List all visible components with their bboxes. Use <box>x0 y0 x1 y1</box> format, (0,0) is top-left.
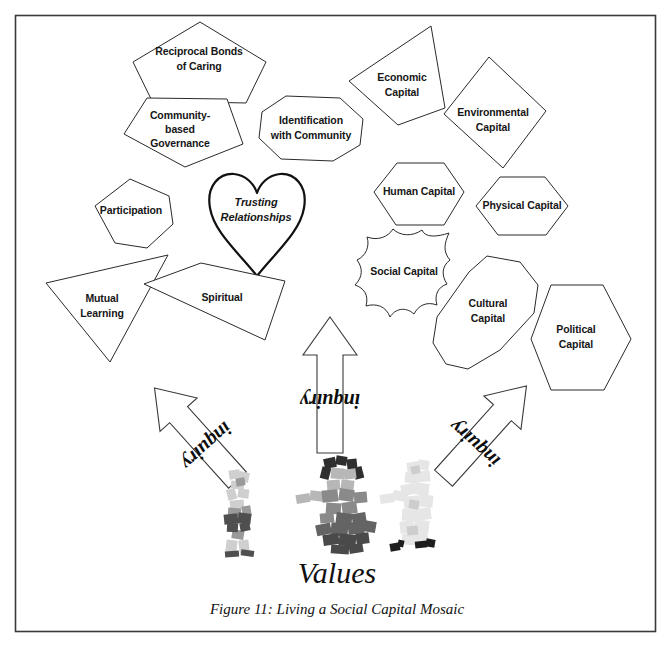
shape-label-line1: Community- <box>150 109 211 121</box>
shape-label-line2: with Community <box>270 129 352 141</box>
shape-label-line2: Capital <box>476 121 510 133</box>
shape-trusting-relationships: Trusting Relationships <box>209 174 304 276</box>
figure-caption: Figure 11: Living a Social Capital Mosai… <box>209 601 464 617</box>
shape-mutual-learning: Mutual Learning <box>46 255 168 362</box>
shape-spiritual: Spiritual <box>144 263 285 340</box>
shape-label-line2: Relationships <box>221 211 292 223</box>
shape-label-line1: Cultural <box>469 297 508 309</box>
shape-label-line1: Participation <box>100 204 162 216</box>
shape-physical-capital: Physical Capital <box>476 177 568 235</box>
shape-label-line1: Identification <box>279 114 343 126</box>
arrow-label-center: inquiry <box>300 389 360 412</box>
shape-label-line1: Reciprocal Bonds <box>155 45 243 57</box>
shape-political-capital: Political Capital <box>531 285 631 390</box>
shape-label-line3: Governance <box>150 137 210 149</box>
shape-economic-capital: Economic Capital <box>349 26 445 125</box>
figure-container: Reciprocal Bonds of Caring Community- ba… <box>0 0 671 645</box>
shape-label-line1: Human Capital <box>383 185 455 197</box>
shape-label-line1: Environmental <box>457 106 529 118</box>
shape-identification-with-community: Identification with Community <box>259 96 363 161</box>
shape-social-capital: Social Capital <box>355 229 450 317</box>
shape-environmental-capital: Environmental Capital <box>444 57 546 168</box>
shape-label-line1: Mutual <box>85 292 118 304</box>
arrow-inquiry-center: inquiry <box>300 317 360 453</box>
shape-community-based-governance: Community- based Governance <box>124 98 243 167</box>
shape-reciprocal-bonds-of-caring: Reciprocal Bonds of Caring <box>133 22 266 103</box>
shape-label-line2: Capital <box>559 338 593 350</box>
arrow-inquiry-right: inquiry <box>421 366 549 498</box>
values-title: Values <box>298 556 376 589</box>
shape-label-line1: Political <box>556 323 596 335</box>
shape-label-line2: Capital <box>471 312 505 324</box>
shape-label-line2: of Caring <box>176 60 221 72</box>
shape-label-line1: Spiritual <box>201 291 242 303</box>
shape-cultural-capital: Cultural Capital <box>433 256 538 369</box>
shape-label-line1: Social Capital <box>370 265 438 277</box>
diagram-canvas: Reciprocal Bonds of Caring Community- ba… <box>0 0 671 645</box>
shape-label-line2: Capital <box>385 86 419 98</box>
shape-label-line1: Physical Capital <box>483 199 562 211</box>
person-figure-right <box>380 459 436 552</box>
shape-label-line2: Learning <box>80 307 124 319</box>
shape-participation: Participation <box>95 179 173 248</box>
shape-label-line1: Trusting <box>235 196 278 208</box>
shape-label-line2: based <box>165 123 195 135</box>
shape-human-capital: Human Capital <box>374 163 464 225</box>
shape-label-line1: Economic <box>377 71 427 83</box>
person-figure-center <box>295 455 376 554</box>
